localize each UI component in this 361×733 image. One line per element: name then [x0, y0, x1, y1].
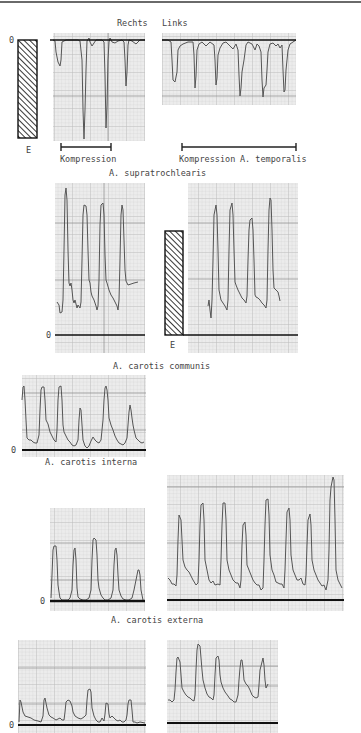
caption-carotis-interna: A. carotis interna [45, 458, 137, 467]
zero-label: 0 [9, 721, 14, 730]
caption-carotis-externa: A. carotis externa [111, 616, 203, 625]
kompression-bar-links [182, 143, 296, 151]
zero-label: 0 [46, 331, 51, 340]
panel-bottom-left [18, 640, 146, 733]
label-kompression-links: Kompression [179, 155, 235, 164]
label-rechts: Rechts [117, 19, 148, 28]
e-label: E [26, 146, 31, 155]
label-kompression-rechts: Kompression [60, 155, 116, 164]
zero-label: 0 [11, 446, 16, 455]
panel-bottom-right [167, 640, 278, 733]
label-links: Links [162, 19, 188, 28]
caption-carotis-communis: A. carotis communis [113, 362, 210, 371]
zero-label: 0 [40, 597, 45, 606]
panel-carotis-interna [22, 375, 146, 457]
zero-label: 0 [9, 36, 14, 45]
calibration-bar-e [18, 40, 37, 138]
panel-carotis-communis-right [183, 183, 298, 353]
caption-supratrochlearis: A. supratrochlearis [109, 169, 206, 178]
label-temporalis: A. temporalis [240, 155, 307, 164]
calibration-bar-e [165, 231, 183, 335]
panel-carotis-communis-left [55, 183, 145, 353]
panel-carotis-externa-right [167, 475, 344, 611]
panel-carotis-externa-left [50, 508, 145, 611]
panel-supratrochlearis-rechts [50, 33, 145, 141]
kompression-bar-rechts [61, 143, 111, 151]
panel-supratrochlearis-links [162, 33, 296, 105]
e-label: E [170, 341, 175, 350]
